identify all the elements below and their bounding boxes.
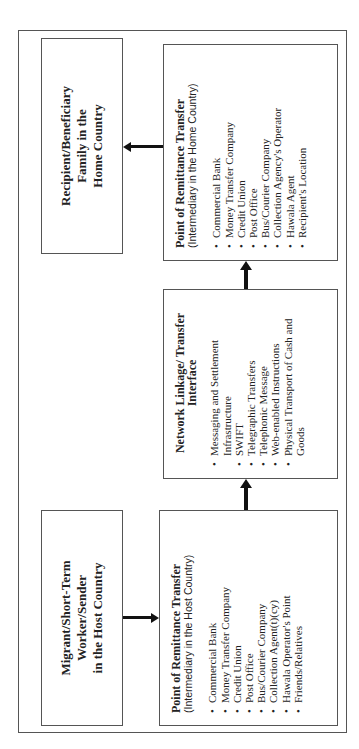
arrow-host-to-network xyxy=(244,486,248,510)
sender-line-3: in the Host Country xyxy=(90,560,106,675)
sender-line-1: Migrant/Short-Term xyxy=(58,560,74,675)
recipient-box: Recipient/Beneficiary Family in the Home… xyxy=(41,38,123,254)
arrow-head-icon xyxy=(151,613,159,623)
list-item: Credit Union xyxy=(235,55,247,248)
home-point-title: Point of Remittance Transfer xyxy=(174,55,186,248)
list-item: Hawala Agent xyxy=(284,55,296,248)
list-item: Collection Agent(t)(cy) xyxy=(267,521,279,713)
arrow-head-icon xyxy=(240,261,252,270)
home-point-list: Commercial Bank Money Transfer Company C… xyxy=(210,55,308,248)
list-item: Money Transfer Company xyxy=(219,521,231,713)
network-title: Network Linkage/ Transfer Interface xyxy=(174,300,198,466)
sender-box: Migrant/Short-Term Worker/Sender in the … xyxy=(41,510,123,726)
recipient-line-2: Family in the xyxy=(74,86,90,206)
list-item: Post Office xyxy=(243,521,255,713)
list-item: Telegraphic Transfers xyxy=(245,300,257,466)
host-point-list: Commercial Bank Money Transfer Company C… xyxy=(206,521,304,713)
list-item: Commercial Bank xyxy=(210,55,222,248)
home-point-box: Point of Remittance Transfer (Intermedia… xyxy=(163,44,338,261)
arrow-head-icon xyxy=(123,142,131,152)
arrow-sender-to-host xyxy=(123,616,153,619)
list-item: Physical Transport of Cash and Goods xyxy=(282,300,306,466)
list-item: Web-enabled Instructions xyxy=(269,300,281,466)
list-item: Messaging and Settlement Infrastructure xyxy=(208,300,232,466)
list-item: Collection Agency's Operator xyxy=(271,55,283,248)
host-point-title: Point of Remittance Transfer xyxy=(170,521,182,713)
arrow-home-to-recipient xyxy=(131,145,163,148)
host-point-box: Point of Remittance Transfer (Intermedia… xyxy=(159,510,338,726)
list-item: Bus/Courier Company xyxy=(259,55,271,248)
list-item: Bus/Courier Company xyxy=(255,521,267,713)
arrow-head-icon xyxy=(240,479,252,488)
list-item: Money Transfer Company xyxy=(223,55,235,248)
recipient-line-1: Recipient/Beneficiary xyxy=(58,86,74,206)
list-item: Post Office xyxy=(247,55,259,248)
remittance-flow-diagram: Migrant/Short-Term Worker/Sender in the … xyxy=(0,0,359,749)
home-point-subtitle: (Intermediary in the Home Country) xyxy=(186,55,198,248)
host-point-subtitle: (Intermediary in the Host Country) xyxy=(182,521,194,713)
sender-line-2: Worker/Sender xyxy=(74,560,90,675)
list-item: Hawala Operator's Point xyxy=(280,521,292,713)
network-list: Messaging and Settlement Infrastructure … xyxy=(208,300,306,466)
list-item: Friends/Relatives xyxy=(292,521,304,713)
list-item: Commercial Bank xyxy=(206,521,218,713)
arrow-network-to-home xyxy=(244,268,248,289)
list-item: Telephonic Message xyxy=(257,300,269,466)
list-item: Recipient's Location xyxy=(296,55,308,248)
recipient-line-3: Home Country xyxy=(90,86,106,206)
list-item: SWIFT xyxy=(233,300,245,466)
network-box: Network Linkage/ Transfer Interface Mess… xyxy=(163,289,338,479)
list-item: Credit Union xyxy=(231,521,243,713)
